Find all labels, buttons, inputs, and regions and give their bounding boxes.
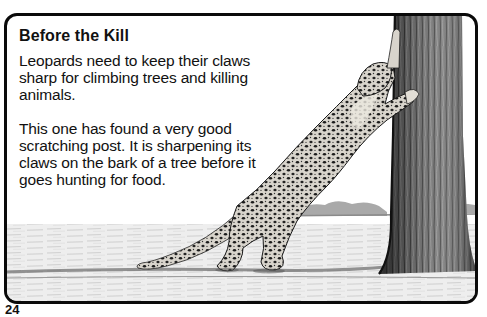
illustration-frame: Before the Kill Leopards need to keep th… xyxy=(4,13,478,304)
article-text: Before the Kill Leopards need to keep th… xyxy=(19,26,279,188)
article-title: Before the Kill xyxy=(19,26,279,45)
article-paragraph-1: Leopards need to keep their claws sharp … xyxy=(19,52,279,103)
page-number: 24 xyxy=(5,303,19,316)
article-paragraph-2: This one has found a very good scratchin… xyxy=(19,120,279,188)
